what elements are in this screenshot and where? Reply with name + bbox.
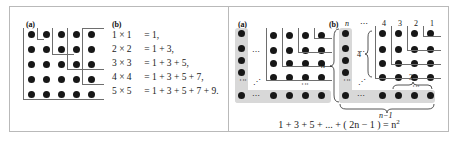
figure-root: (a) (0, 0, 459, 144)
right-b-gnomon-vertical (375, 26, 376, 78)
left-part-a-label: (a) (26, 20, 35, 29)
dot (427, 92, 434, 99)
equation-row: 1 × 1 = 1, (112, 30, 219, 44)
summation-formula-exponent: 2 (396, 118, 400, 126)
dot (88, 61, 95, 68)
dot (342, 92, 349, 99)
equation-lhs: 2 × 2 (112, 44, 142, 54)
dot (58, 61, 65, 68)
equation-rhs: 1 + 3 + 5 + 7, (152, 72, 204, 82)
right-b-gnomon-horizontal-2 (391, 64, 441, 65)
shade-band-row-b (339, 90, 435, 103)
gnomon-outer-horizontal (23, 99, 104, 100)
right-b-gnomon-vertical-3 (407, 26, 408, 50)
column-label-n: n (342, 19, 352, 28)
right-a-gnomon-vertical-2 (282, 28, 283, 66)
right-a-gnomon-horizontal (266, 80, 332, 81)
dot (43, 76, 50, 83)
ellipsis-diagonal-icon: ⋰ (253, 78, 262, 86)
equation-equals: = (142, 58, 152, 68)
dot (286, 47, 293, 54)
dot (88, 46, 95, 53)
dot (302, 32, 309, 39)
dot (270, 60, 277, 67)
summation-formula-text: 1 + 3 + 5 + ... + ( 2n − 1 ) = n (278, 119, 396, 130)
shade-band-row (235, 90, 331, 103)
column-label-4: 4 (379, 19, 389, 28)
dot (238, 69, 245, 76)
dot (73, 61, 80, 68)
dot (58, 46, 65, 53)
dot (379, 92, 386, 99)
dot (342, 45, 349, 52)
equation-lhs: 5 × 5 (112, 86, 142, 96)
right-b-gnomon-vertical-4 (423, 26, 424, 36)
dot (73, 46, 80, 53)
ellipsis-horizontal-icon: ⋯ (357, 92, 366, 100)
dot (286, 92, 293, 99)
dot (302, 92, 309, 99)
dot (28, 31, 35, 38)
brace-n-left (330, 28, 340, 103)
column-label-1: 1 (427, 19, 437, 28)
dot (43, 46, 50, 53)
ellipsis-vertical-icon: ⋮ (343, 76, 351, 84)
ellipsis-vertical-icon: ⋮ (301, 80, 309, 88)
ellipsis-vertical-icon: ⋮ (239, 76, 247, 84)
equation-row: 5 × 5 = 1 + 3 + 5 + 7 + 9. (112, 86, 219, 100)
right-b-gnomon-horizontal-4 (423, 36, 441, 37)
brace-label-n: n (321, 61, 325, 70)
dot (342, 69, 349, 76)
left-panel: (a) (9, 6, 229, 132)
right-b-gnomon-horizontal (375, 78, 441, 79)
ellipsis-horizontal-icon: ⋯ (252, 92, 261, 100)
dot (238, 30, 245, 37)
dot (342, 30, 349, 37)
dot (43, 31, 50, 38)
dot (28, 91, 35, 98)
right-a-gnomon-vertical (266, 28, 267, 80)
equation-rhs: 1 + 3, (152, 44, 174, 54)
right-b-gnomon-horizontal-3 (407, 50, 441, 51)
dot (43, 91, 50, 98)
brace-label-3: 3 (409, 73, 413, 82)
dot (379, 46, 386, 53)
right-b-gnomon-vertical-2 (391, 26, 392, 64)
dot (73, 31, 80, 38)
dot (73, 76, 80, 83)
equation-row: 2 × 2 = 1 + 3, (112, 44, 219, 58)
gnomon-line-1-vertical (37, 28, 38, 39)
dot (342, 57, 349, 64)
gnomon-line-2-vertical (52, 28, 53, 54)
right-panel: (a) (229, 6, 449, 132)
dot (379, 60, 386, 67)
gnomon-top-horizontal (82, 28, 104, 29)
right-a-gnomon-vertical-3 (298, 28, 299, 52)
gnomon-line-3-horizontal (67, 69, 104, 70)
dot (88, 76, 95, 83)
brace-4 (365, 30, 373, 78)
gnomon-line-3-vertical (67, 28, 68, 69)
dot (28, 61, 35, 68)
ellipsis-horizontal-icon: ⋯ (252, 48, 261, 56)
equation-list: 1 × 1 = 1, 2 × 2 = 1 + 3, 3 × 3 = 1 + 3 … (112, 30, 219, 100)
dot (270, 92, 277, 99)
dot (238, 57, 245, 64)
ellipsis-vertical-icon: ⋮ (412, 82, 420, 90)
gnomon-line-4-horizontal (82, 84, 104, 85)
dot (28, 76, 35, 83)
dot (318, 92, 325, 99)
dot (88, 91, 95, 98)
right-a-gnomon-horizontal-3 (298, 52, 332, 53)
equation-rhs: 1 + 3 + 5 + 7 + 9. (152, 86, 219, 96)
equation-equals: = (142, 86, 152, 96)
dot (270, 47, 277, 54)
equation-lhs: 4 × 4 (112, 72, 142, 82)
dot (88, 31, 95, 38)
summation-formula: 1 + 3 + 5 + ... + ( 2n − 1 ) = n2 (229, 118, 449, 130)
equation-equals: = (142, 44, 152, 54)
dot (238, 45, 245, 52)
dot (238, 92, 245, 99)
dot (395, 30, 402, 37)
left-part-b-label: (b) (112, 20, 121, 29)
